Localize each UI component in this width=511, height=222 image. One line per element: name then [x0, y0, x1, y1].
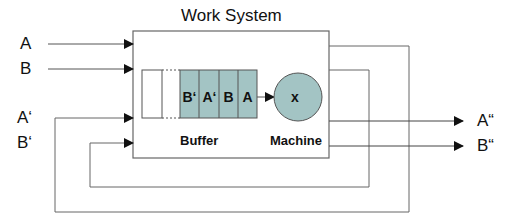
output-a-label: A“ [477, 111, 494, 131]
buffer-empty-slot [142, 70, 162, 118]
input-a-prime-label: A‘ [17, 108, 32, 128]
input-b-prime-label: B‘ [17, 133, 32, 153]
work-system-diagram [0, 0, 511, 222]
machine-symbol: x [291, 89, 299, 105]
buffer-cell-a-prime: A‘ [200, 89, 219, 105]
input-b-label: B [20, 59, 31, 79]
buffer-cell-a: A [238, 89, 257, 105]
buffer-label: Buffer [180, 133, 218, 148]
buffer-cell-b: B [219, 89, 238, 105]
diagram-title: Work System [181, 6, 282, 26]
machine-label: Machine [270, 133, 322, 148]
input-a-label: A [20, 34, 31, 54]
buffer-cell-b-prime: B‘ [180, 89, 199, 105]
output-b-label: B“ [477, 136, 494, 156]
